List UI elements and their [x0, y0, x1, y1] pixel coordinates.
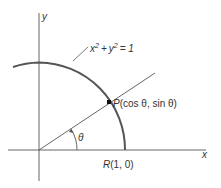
- point-p-label: P(cos θ, sin θ): [113, 98, 177, 109]
- point-p-marker: [107, 100, 111, 104]
- unit-circle-diagram: y x x2+y2= 1 P(cos θ, sin θ) R(1, 0) θ: [0, 0, 221, 188]
- angle-theta-label: θ: [78, 132, 84, 143]
- equation-leader: [73, 47, 88, 61]
- unit-circle-arc: [13, 63, 125, 151]
- circle-equation: x2+y2= 1: [89, 42, 134, 54]
- y-axis-label: y: [41, 11, 48, 22]
- point-r-label: R(1, 0): [103, 159, 134, 170]
- x-axis-label: x: [201, 149, 208, 160]
